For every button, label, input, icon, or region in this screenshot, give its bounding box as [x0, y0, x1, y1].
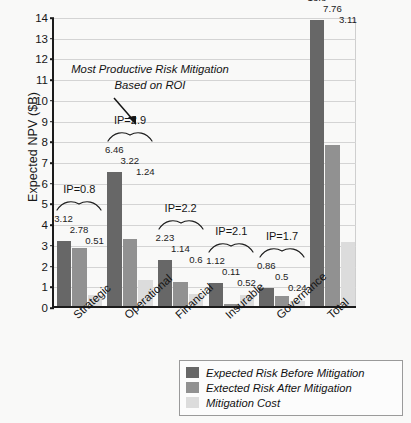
y-tick-label: 6 [42, 178, 48, 190]
bar-value-label: 0.6 [189, 254, 202, 265]
y-tick-mark [50, 141, 54, 143]
chart-figure: Expected NPV ($B) 01234567891011121314 3… [0, 0, 411, 423]
bar-value-label: 1.24 [136, 166, 155, 177]
y-tick-label: 9 [42, 116, 48, 128]
y-tick-mark [50, 224, 54, 226]
ip-brace [158, 216, 204, 234]
legend-swatch [186, 367, 199, 378]
bar-group [310, 18, 356, 306]
y-tick-label: 14 [35, 12, 48, 24]
y-tick-label: 8 [42, 136, 48, 148]
y-tick-mark [50, 121, 54, 123]
y-tick-mark [50, 204, 54, 206]
y-tick-mark [50, 162, 54, 164]
ip-label: IP=1.7 [266, 230, 298, 242]
ip-label: IP=0.8 [63, 183, 95, 195]
legend-item[interactable]: Mitigation Cost [186, 395, 396, 410]
legend-swatch [186, 397, 199, 408]
ip-brace [208, 239, 254, 257]
bar-value-label: 0.11 [222, 266, 240, 277]
y-tick-label: 13 [35, 33, 48, 45]
bar-value-label: 7.76 [323, 3, 342, 14]
bar-value-label: 3.22 [120, 155, 139, 166]
bar [123, 239, 138, 306]
bar-value-label: 0.51 [85, 235, 104, 246]
chart-legend: Expected Risk Before MitigationExtected … [179, 360, 403, 416]
y-tick-mark [50, 100, 54, 102]
callout-arrow-icon [112, 96, 146, 128]
ip-label: IP=2.1 [215, 225, 247, 237]
ip-brace [107, 128, 153, 146]
y-tick-label: 1 [42, 281, 48, 293]
y-tick-label: 4 [42, 219, 48, 231]
legend-label: Extected Risk After Mitigation [206, 382, 352, 394]
ip-label: IP=2.2 [165, 202, 197, 214]
y-tick-label: 11 [36, 74, 48, 86]
bar [57, 241, 72, 306]
ip-brace [56, 197, 102, 215]
legend-item[interactable]: Extected Risk After Mitigation [186, 380, 396, 395]
bar-value-label: 0.5 [275, 271, 288, 282]
y-tick-label: 2 [42, 261, 48, 273]
bar [325, 145, 340, 306]
bar-value-label: 3.11 [339, 14, 357, 25]
legend-label: Mitigation Cost [206, 397, 280, 409]
y-tick-label: 10 [35, 95, 48, 107]
legend-label: Expected Risk Before Mitigation [206, 367, 365, 379]
y-tick-label: 5 [42, 198, 48, 210]
y-tick-mark [50, 59, 54, 61]
y-tick-mark [50, 17, 54, 19]
y-tick-label: 3 [42, 240, 48, 252]
legend-item[interactable]: Expected Risk Before Mitigation [186, 365, 396, 380]
bar [310, 20, 325, 306]
y-tick-label: 7 [42, 157, 48, 169]
y-tick-mark [50, 266, 54, 268]
bar-value-label: 1.14 [171, 243, 190, 254]
y-tick-label: 12 [35, 53, 48, 65]
y-tick-mark [50, 183, 54, 185]
y-tick-mark [50, 307, 54, 309]
y-tick-label: 0 [42, 302, 48, 314]
y-tick-mark [50, 245, 54, 247]
bar [72, 248, 87, 306]
ip-brace [259, 244, 305, 262]
legend-swatch [186, 382, 199, 393]
y-tick-mark [50, 286, 54, 288]
callout-text: Most Productive Risk Mitigation Based on… [70, 62, 230, 93]
y-tick-mark [50, 79, 54, 81]
y-tick-mark [50, 38, 54, 40]
bar-value-label: 2.78 [70, 224, 89, 235]
